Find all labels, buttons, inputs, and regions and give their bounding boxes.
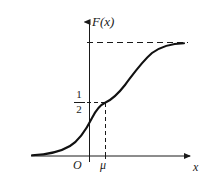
mu-tick-label: μ [100,159,106,171]
cdf-curve [32,43,184,155]
origin-label: O [73,159,82,171]
fraction-numerator: 1 [70,89,88,102]
y-axis-label: F(x) [92,15,114,28]
half-tick-label: 1 2 [70,89,88,115]
x-axis-label: x [193,161,198,173]
cdf-figure: F(x) x O μ 1 2 [0,0,209,184]
fraction-denominator: 2 [70,103,88,116]
